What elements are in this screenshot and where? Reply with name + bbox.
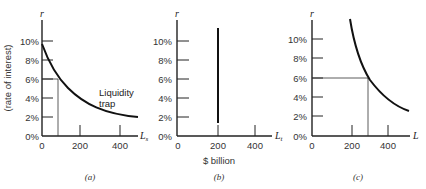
total-demand-curve <box>350 19 409 111</box>
y-axis-symbol: r <box>40 8 44 19</box>
caption-a: (a) <box>85 172 96 182</box>
x-tick-label: 0 <box>39 140 44 151</box>
y-tick-label: 10% <box>20 36 40 47</box>
x-tick-label: 400 <box>380 140 396 151</box>
x-tick-label: 200 <box>344 140 360 151</box>
x-axis-label: $ billion <box>203 155 235 166</box>
x-axis-symbol: L <box>412 130 419 141</box>
caption-c: (c) <box>353 172 363 182</box>
x-tick-label: 200 <box>210 140 226 151</box>
y-tick-label: 8% <box>25 55 39 66</box>
y-tick-label: 0% <box>158 131 172 142</box>
y-tick-label: 6% <box>158 74 172 85</box>
x-tick-label: 0 <box>309 140 314 151</box>
liquidity-preference-curve <box>42 44 138 117</box>
annotation-liquidity: Liquidity <box>99 87 134 98</box>
y-tick-label: 8% <box>293 53 307 64</box>
y-axis-symbol: r <box>310 8 314 19</box>
x-axis-symbol: Lt <box>274 130 284 143</box>
y-tick-label: 4% <box>158 93 172 104</box>
y-tick-label: 4% <box>25 93 39 104</box>
y-tick-label: 2% <box>158 112 172 123</box>
x-axis-symbol: Ls <box>139 130 149 143</box>
y-tick-label: 6% <box>25 74 39 85</box>
y-tick-label: 2% <box>293 111 307 122</box>
panel-c: r 10% 8% 6% 4% 2% 0% 0 200 400 L (c) <box>288 8 419 182</box>
y-tick-label: 6% <box>293 73 307 84</box>
y-tick-label: 10% <box>153 36 173 47</box>
y-tick-label: 8% <box>158 55 172 66</box>
panel-b: r 10% 8% 6% 4% 2% 0% 0 200 400 Lt $ bill… <box>153 8 284 182</box>
y-axis-symbol: r <box>175 8 179 19</box>
x-tick-label: 400 <box>112 140 128 151</box>
x-tick-label: 200 <box>72 140 88 151</box>
y-tick-label: 4% <box>293 92 307 103</box>
x-tick-label: 0 <box>175 140 180 151</box>
y-tick-label: 2% <box>25 112 39 123</box>
y-tick-label: 0% <box>293 131 307 142</box>
y-axis-label: (rate of interest) <box>2 44 13 111</box>
figure: r 10% 8% 6% 4% 2% 0% 0 200 400 Ls (rate … <box>0 0 426 189</box>
x-tick-label: 400 <box>247 140 263 151</box>
annotation-trap: trap <box>99 98 115 109</box>
panel-a: r 10% 8% 6% 4% 2% 0% 0 200 400 Ls (rate … <box>2 8 149 182</box>
y-tick-label: 10% <box>288 34 308 45</box>
y-tick-label: 0% <box>25 131 39 142</box>
caption-b: (b) <box>214 172 225 182</box>
